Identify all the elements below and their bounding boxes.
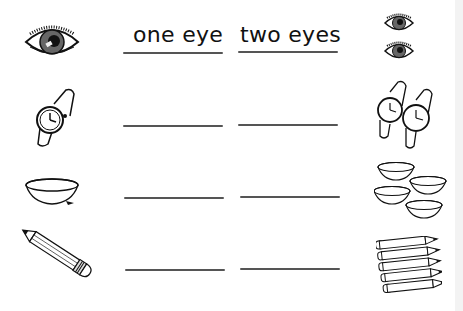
two-watches-icon (372, 80, 444, 152)
four-bowls-icon (374, 160, 448, 222)
answer-line-singular-watch[interactable] (123, 125, 223, 127)
answer-line-plural-bowl[interactable] (240, 196, 340, 198)
five-pencils-icon (376, 236, 442, 296)
pencil-icon (18, 228, 98, 278)
header-singular: one eye (133, 22, 223, 47)
answer-line-singular-bowl[interactable] (124, 197, 224, 199)
bowl-icon (24, 177, 82, 207)
answer-line-plural-watch[interactable] (238, 124, 338, 126)
watch-icon (30, 86, 78, 148)
answer-line-singular-eye[interactable] (123, 52, 223, 54)
eye-icon (22, 20, 82, 60)
answer-line-plural-pencil[interactable] (240, 268, 340, 270)
two-eyes-icon (383, 10, 415, 66)
answer-line-singular-pencil[interactable] (125, 269, 225, 271)
answer-line-plural-eye[interactable] (238, 51, 338, 53)
page-edge-shadow (455, 0, 463, 311)
header-plural: two eyes (240, 22, 341, 47)
